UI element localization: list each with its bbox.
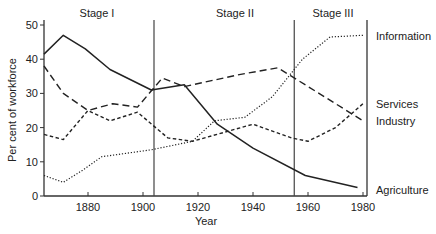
legend-industry: Industry	[376, 115, 416, 127]
x-tick-label: 1960	[296, 201, 320, 213]
stage-2-label: Stage II	[216, 7, 254, 19]
y-tick-label: 20	[26, 122, 38, 134]
x-tick-label: 1980	[351, 201, 375, 213]
axes: 01020304050188019001920194019601980	[26, 19, 375, 213]
y-tick-label: 30	[26, 87, 38, 99]
series-lines	[44, 35, 363, 187]
stage-3-label: Stage III	[313, 7, 354, 19]
x-tick-label: 1900	[131, 201, 155, 213]
legend-agriculture: Agriculture	[376, 184, 429, 196]
legend-information: Information	[376, 30, 431, 42]
y-tick-label: 50	[26, 19, 38, 31]
stage-1-label: Stage I	[80, 7, 115, 19]
stage-dividers	[154, 20, 294, 196]
legend-services: Services	[376, 98, 419, 110]
workforce-chart: 01020304050188019001920194019601980 Stag…	[0, 0, 436, 234]
x-tick-label: 1880	[76, 201, 100, 213]
y-axis-label: Per cent of workforce	[6, 58, 18, 162]
x-tick-label: 1940	[241, 201, 265, 213]
x-axis-label: Year	[195, 215, 218, 227]
x-tick-label: 1920	[186, 201, 210, 213]
y-tick-label: 40	[26, 53, 38, 65]
y-tick-label: 10	[26, 156, 38, 168]
y-tick-label: 0	[32, 190, 38, 202]
